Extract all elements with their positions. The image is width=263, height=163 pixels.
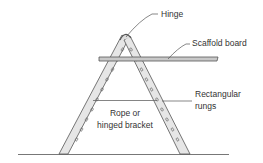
trestle-diagram [0, 0, 263, 163]
right-ladder-leg [124, 36, 190, 154]
hinge-leader [126, 14, 158, 37]
hinge-label: Hinge [161, 9, 183, 20]
rope-label-2: hinged bracket [85, 120, 165, 131]
scaffold-board [99, 57, 218, 61]
left-ladder-leg [59, 35, 128, 154]
rope-label-1: Rope or [95, 108, 155, 119]
rectangular-rungs-label-1: Rectangular [195, 89, 241, 100]
scaffold-board-label: Scaffold board [192, 38, 247, 49]
rectangular-rungs-label-2: rungs [195, 101, 216, 112]
